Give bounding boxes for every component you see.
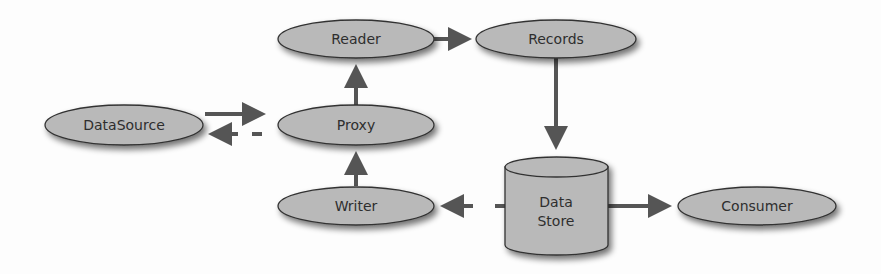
node-proxy-label: Proxy	[337, 117, 375, 133]
diagram-svg: Reader Records DataSource Proxy Writer D…	[0, 0, 881, 274]
node-writer[interactable]: Writer	[278, 187, 434, 225]
node-consumer[interactable]: Consumer	[678, 187, 836, 225]
node-datastore-label-line2: Store	[537, 213, 574, 229]
node-datastore-label-line1: Data	[539, 194, 572, 210]
node-consumer-label: Consumer	[721, 198, 793, 214]
node-datasource[interactable]: DataSource	[45, 105, 203, 145]
node-records-label: Records	[528, 31, 584, 47]
node-datasource-label: DataSource	[83, 117, 165, 133]
node-proxy[interactable]: Proxy	[278, 105, 434, 145]
node-datastore[interactable]: Data Store	[505, 157, 608, 255]
node-reader-label: Reader	[331, 31, 381, 47]
node-reader[interactable]: Reader	[278, 20, 434, 58]
node-records[interactable]: Records	[476, 20, 636, 58]
diagram-canvas: Reader Records DataSource Proxy Writer D…	[0, 0, 881, 274]
node-writer-label: Writer	[335, 198, 378, 214]
